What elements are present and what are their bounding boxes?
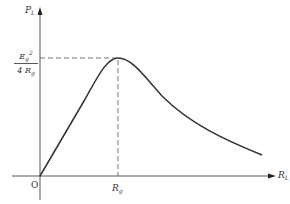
x-axis-label: RL: [278, 171, 289, 181]
y-axis-label: PL: [25, 6, 35, 16]
x-axis-arrow-icon: [268, 174, 276, 179]
peak-power-label: Eg2 4 Rg: [14, 49, 38, 76]
origin-label: O: [31, 181, 38, 190]
peak-resistance-label: Rg: [112, 184, 123, 194]
power-curve: [40, 58, 262, 176]
power-curve-diagram: [0, 0, 290, 204]
y-axis-arrow-icon: [38, 7, 43, 15]
